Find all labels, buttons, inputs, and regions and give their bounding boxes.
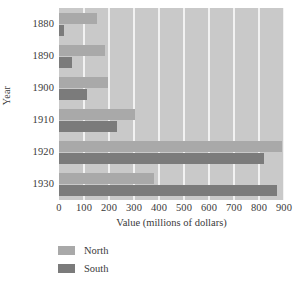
gridline	[283, 8, 284, 200]
y-axis-tick-labels: 188018901900191019201930	[18, 8, 57, 200]
gridline	[158, 8, 160, 200]
bar-north-1910	[59, 109, 135, 120]
bar-north-1880	[59, 13, 97, 24]
x-tick-label-200: 200	[101, 201, 117, 214]
bar-north-1930	[59, 173, 154, 184]
y-tick-label-1880: 1880	[33, 18, 54, 29]
bar-north-1900	[59, 77, 108, 88]
x-tick-label-700: 700	[226, 201, 242, 214]
bar-south-1930	[59, 185, 277, 196]
chart-legend: NorthSouth	[58, 243, 218, 279]
bar-south-1910	[59, 121, 117, 132]
x-tick-label-400: 400	[151, 201, 167, 214]
gridline	[183, 8, 185, 200]
bar-south-1890	[59, 57, 72, 68]
legend-label-north: North	[84, 245, 109, 257]
gridline	[258, 8, 260, 200]
x-axis-tick-labels: 0100200300400500600700800900	[59, 201, 284, 217]
plot-area	[59, 8, 284, 200]
gridline	[108, 8, 110, 200]
bar-chart: Year 188018901900191019201930 0100200300…	[0, 0, 298, 284]
x-tick-label-500: 500	[176, 201, 192, 214]
bar-north-1920	[59, 141, 282, 152]
y-axis-title: Year	[1, 76, 12, 116]
x-tick-label-600: 600	[201, 201, 217, 214]
bar-south-1900	[59, 89, 87, 100]
gridline	[208, 8, 210, 200]
x-tick-label-800: 800	[251, 201, 267, 214]
y-tick-label-1920: 1920	[33, 146, 54, 157]
x-tick-label-900: 900	[276, 201, 292, 214]
x-tick-label-300: 300	[126, 201, 142, 214]
legend-label-south: South	[84, 263, 109, 275]
legend-item-north: North	[58, 243, 218, 258]
legend-swatch-north-icon	[58, 246, 75, 255]
legend-item-south: South	[58, 261, 218, 276]
bar-north-1890	[59, 45, 105, 56]
x-tick-label-100: 100	[76, 201, 92, 214]
y-tick-label-1930: 1930	[33, 178, 54, 189]
gridline	[233, 8, 235, 200]
x-tick-label-0: 0	[56, 201, 61, 214]
x-axis-title: Value (millions of dollars)	[59, 217, 284, 228]
bar-south-1880	[59, 25, 64, 36]
y-tick-label-1910: 1910	[33, 114, 54, 125]
gridline	[133, 8, 135, 200]
y-tick-label-1900: 1900	[33, 82, 54, 93]
gridline	[83, 8, 85, 200]
bar-south-1920	[59, 153, 264, 164]
y-tick-label-1890: 1890	[33, 50, 54, 61]
legend-swatch-south-icon	[58, 264, 75, 273]
